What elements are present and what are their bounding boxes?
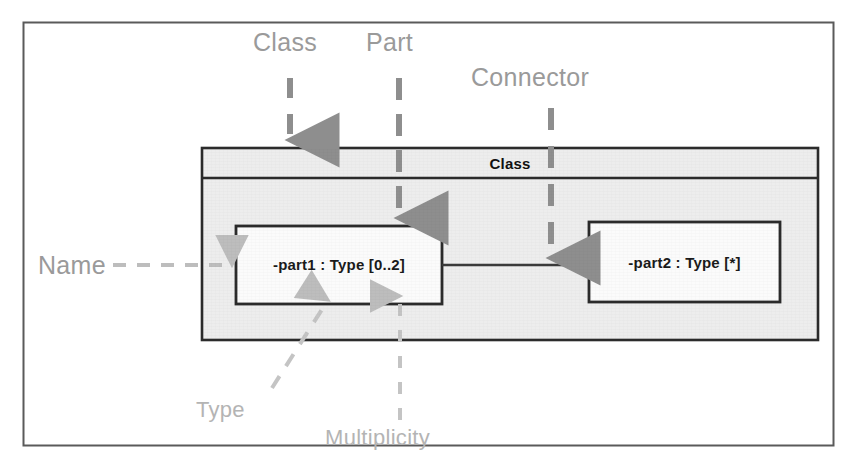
uml-composite-structure-figure: [0, 0, 846, 463]
diagram-canvas: Class Part Connector Name Type Multiplic…: [0, 0, 846, 463]
part1-box: [236, 226, 442, 304]
part2-box: [589, 222, 780, 302]
